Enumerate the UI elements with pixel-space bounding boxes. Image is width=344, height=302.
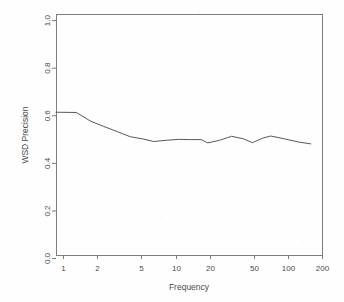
x-tick-label-6: 100 <box>282 264 296 273</box>
x-tick-label-1: 2 <box>95 264 100 273</box>
y-tick-label-1: 0.2 <box>43 205 52 217</box>
x-tick-label-3: 10 <box>172 264 181 273</box>
y-tick-label-4: 0.8 <box>43 62 52 74</box>
x-tick-label-5: 50 <box>250 264 259 273</box>
wsd-precision-line-chart: 0.0 0.2 0.4 0.6 0.8 1.0 WSD Precision 1 … <box>0 0 344 302</box>
x-axis: 1 2 5 10 20 50 100 200 <box>61 255 329 273</box>
y-tick-label-3: 0.6 <box>43 110 52 122</box>
y-axis-title: WSD Precision <box>20 106 30 163</box>
y-tick-label-2: 0.4 <box>43 157 52 169</box>
y-tick-label-0: 0.0 <box>43 252 52 264</box>
y-tick-label-5: 1.0 <box>43 14 52 26</box>
x-tick-label-7: 200 <box>316 264 330 273</box>
x-tick-label-4: 20 <box>206 264 215 273</box>
x-tick-label-2: 5 <box>139 264 144 273</box>
x-axis-title: Frequency <box>169 282 210 292</box>
data-series-line <box>56 112 311 144</box>
y-axis: 0.0 0.2 0.4 0.6 0.8 1.0 <box>43 14 56 264</box>
chart-figure: 0.0 0.2 0.4 0.6 0.8 1.0 WSD Precision 1 … <box>0 0 344 302</box>
x-tick-label-0: 1 <box>61 264 66 273</box>
plot-frame <box>57 15 323 256</box>
